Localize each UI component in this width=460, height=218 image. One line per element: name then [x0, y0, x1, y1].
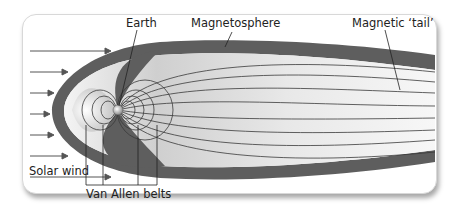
earth-icon: [113, 105, 123, 115]
magnetosphere-diagram: Earth Magnetosphere Magnetic ‘tail’ Sola…: [0, 0, 460, 218]
label-magnetosphere: Magnetosphere: [191, 16, 280, 30]
label-solar-wind: Solar wind: [29, 164, 89, 178]
label-van-allen-belts: Van Allen belts: [86, 187, 171, 201]
label-magnetic-tail: Magnetic ‘tail’: [352, 16, 434, 30]
label-earth: Earth: [126, 16, 157, 30]
